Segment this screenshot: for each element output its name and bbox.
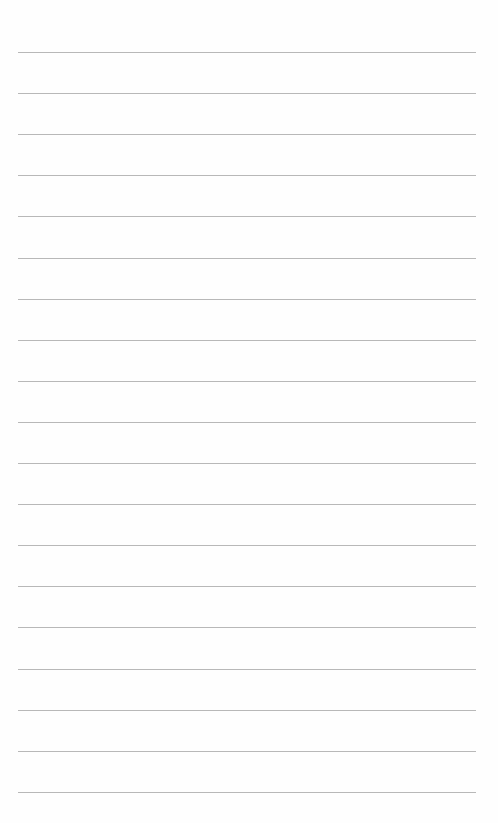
- ruled-line: [18, 381, 476, 382]
- ruled-line: [18, 586, 476, 587]
- ruled-line: [18, 93, 476, 94]
- ruled-line: [18, 216, 476, 217]
- ruled-line: [18, 422, 476, 423]
- ruled-line: [18, 545, 476, 546]
- ruled-line: [18, 710, 476, 711]
- ruled-line: [18, 792, 476, 793]
- ruled-line: [18, 463, 476, 464]
- ruled-line: [18, 175, 476, 176]
- ruled-line: [18, 669, 476, 670]
- ruled-line: [18, 627, 476, 628]
- ruled-line: [18, 134, 476, 135]
- ruled-line: [18, 504, 476, 505]
- ruled-line: [18, 751, 476, 752]
- ruled-line: [18, 258, 476, 259]
- ruled-line: [18, 340, 476, 341]
- lined-paper-page: [0, 0, 498, 823]
- ruled-line: [18, 52, 476, 53]
- ruled-line: [18, 299, 476, 300]
